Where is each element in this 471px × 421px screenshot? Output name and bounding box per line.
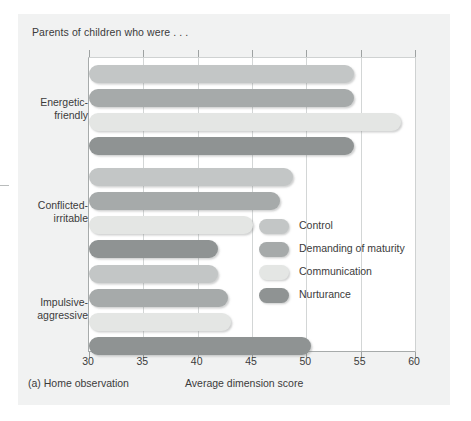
bar-control [89,265,218,283]
bar-demanding-of-maturity [89,192,280,210]
bar-nurturance [89,337,311,355]
y-axis-category-label: Energetic-friendly [0,96,88,121]
legend-item-label: Nurturance [299,288,351,300]
y-axis-category-label-line: aggressive [0,309,88,322]
bar-communication [89,313,231,331]
plot-area [88,57,416,352]
legend-swatch-icon [259,219,289,234]
legend-swatch-icon [259,265,289,280]
legend-item-label: Demanding of maturity [299,242,405,254]
bar-control [89,65,354,83]
bar-nurturance [89,137,354,155]
y-axis-category-label-line: Conflicted- [0,199,88,212]
gridline [361,58,362,351]
y-axis-category-label-line: Impulsive- [0,296,88,309]
legend-item-label: Communication [299,265,372,277]
x-axis-label: Average dimension score [185,377,303,389]
bar-demanding-of-maturity [89,289,228,307]
x-axis-tick [143,50,144,57]
x-axis-tick-label: 60 [408,355,420,367]
bar-communication [89,113,401,131]
y-axis-category-label: Impulsive-aggressive [0,296,88,321]
y-axis-category-label-line: irritable [0,212,88,225]
bar-control [89,168,293,186]
y-axis-category-label-line: Energetic- [0,96,88,109]
x-axis-tick-label: 55 [354,355,366,367]
x-axis-tick-label: 30 [82,355,94,367]
bar-nurturance [89,240,218,258]
y-axis-category-label-line: friendly [0,109,88,122]
x-axis-tick [89,50,90,57]
bar-communication [89,216,253,234]
x-axis-tick [252,50,253,57]
x-axis-tick-label: 45 [245,355,257,367]
figure-panel: Parents of children who were . . . (a) H… [0,0,471,421]
figure-title: Parents of children who were . . . [32,26,188,38]
x-axis-tick [415,50,416,57]
y-axis-category-label: Conflicted-irritable [0,199,88,224]
margin-rule [0,185,9,186]
figure-caption: (a) Home observation [28,377,129,389]
bar-demanding-of-maturity [89,89,354,107]
x-axis-tick [306,50,307,57]
x-axis-tick [198,50,199,57]
x-axis-tick-label: 50 [299,355,311,367]
legend-swatch-icon [259,288,289,303]
x-axis-tick-label: 35 [136,355,148,367]
x-axis-tick-label: 40 [191,355,203,367]
legend-item-label: Control [299,219,333,231]
legend-swatch-icon [259,242,289,257]
x-axis-tick [361,50,362,57]
